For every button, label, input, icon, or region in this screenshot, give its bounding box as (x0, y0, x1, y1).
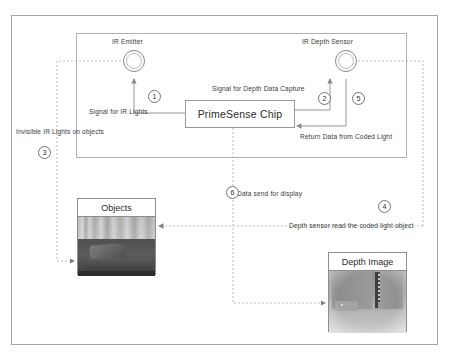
ir-emitter-label: IR Emitter (112, 38, 143, 45)
diagram-canvas: PrimeSense Chip IR Emitter IR Depth Sens… (0, 0, 449, 355)
return-data-label: Return Data from Coded Light (300, 133, 392, 140)
data-send-for-display-label: Data send for display (237, 190, 302, 197)
invisible-ir-lights-label: Invisible IR Lights on objects (16, 128, 104, 135)
step-marker-2: 2 (318, 92, 331, 105)
signal-depth-capture-label: Signal for Depth Data Capture (212, 85, 305, 92)
step-marker-5: 5 (352, 92, 365, 105)
objects-photo (78, 217, 155, 276)
depth-image-panel-caption: Depth Image (329, 253, 406, 271)
step-marker-6: 6 (226, 186, 239, 199)
objects-photo-shadow (78, 271, 155, 276)
depth-photo-vignette (329, 271, 406, 333)
ir-depth-sensor-label: IR Depth Sensor (302, 38, 353, 45)
objects-panel-caption: Objects (78, 199, 155, 217)
primesense-chip-label: PrimeSense Chip (198, 108, 283, 120)
depth-image-panel: Depth Image (328, 252, 407, 332)
depth-image-photo (329, 271, 406, 333)
objects-panel: Objects (77, 198, 156, 275)
step-marker-4: 4 (378, 200, 391, 213)
depth-sensor-read-label: Depth sensor read the coded light object (289, 222, 413, 229)
step-marker-1: 1 (148, 90, 161, 103)
step-marker-3: 3 (38, 146, 51, 159)
connector-data-send (233, 128, 325, 303)
ir-emitter-lens-icon (123, 50, 145, 72)
ir-depth-sensor-lens-icon (335, 50, 357, 72)
signal-ir-lights-label: Signal for IR Lights (89, 108, 148, 115)
primesense-chip-box: PrimeSense Chip (185, 100, 295, 128)
